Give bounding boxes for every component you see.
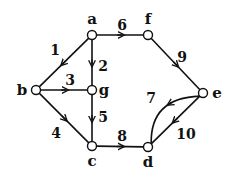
edge-weight-label: 8 [117,128,127,144]
node-c [88,142,97,151]
edge-weight-label: 3 [65,72,75,88]
graph-diagram: 12345678910afbgecd [0,0,232,188]
node-label: a [87,10,97,28]
node-label: e [212,84,222,102]
edge-weight-label: 9 [177,49,187,65]
node-e [199,89,208,98]
node-a [88,31,97,40]
edge-weight-label: 2 [98,58,108,74]
graph-svg: 12345678910afbgecd [0,0,232,188]
edge-weight-label: 1 [50,42,60,58]
node-label: d [143,153,154,171]
node-d [144,143,153,152]
node-g [88,86,97,95]
node-label: b [17,81,28,99]
edge-weight-label: 7 [146,90,156,106]
edge-weight-label: 5 [98,109,108,125]
node-label: g [99,81,110,99]
edge-weight-label: 10 [176,126,196,142]
node-b [32,86,41,95]
edge-weight-label: 4 [51,125,61,141]
node-label: f [145,10,153,28]
node-label: c [87,152,96,170]
node-f [144,31,153,40]
edge-weight-label: 6 [117,17,127,33]
